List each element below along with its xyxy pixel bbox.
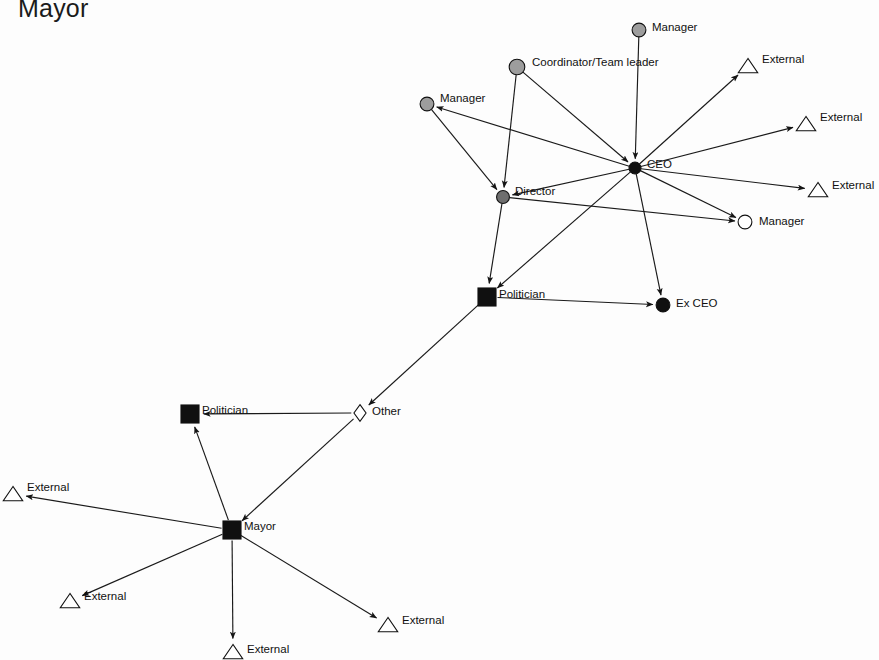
graph-edge xyxy=(369,304,479,405)
graph-edge xyxy=(195,427,229,520)
graph-node-manager_left[interactable]: Manager xyxy=(420,92,485,111)
graph-node-external_r2[interactable]: External xyxy=(796,111,862,131)
triangle-marker xyxy=(796,117,815,131)
circle-marker xyxy=(632,23,646,37)
graph-node-politician_lower[interactable]: Politician xyxy=(181,404,248,423)
node-label: Ex CEO xyxy=(676,297,718,309)
circle-marker xyxy=(420,97,434,111)
graph-edge xyxy=(640,171,736,218)
edges-layer xyxy=(26,37,804,639)
circle-marker xyxy=(656,298,670,312)
graph-node-coordinator[interactable]: Coordinator/Team leader xyxy=(509,56,659,75)
graph-edge xyxy=(82,534,222,595)
graph-node-director[interactable]: Director xyxy=(497,185,556,203)
node-label: External xyxy=(402,614,444,626)
node-label: Mayor xyxy=(244,520,276,532)
circle-marker xyxy=(497,191,510,204)
node-label: External xyxy=(832,179,874,191)
graph-node-external_b2[interactable]: External xyxy=(378,614,444,632)
graph-node-external_l2[interactable]: External xyxy=(60,590,126,608)
graph-edge xyxy=(431,109,497,189)
nodes-layer: ManagerCoordinator/Team leaderManagerCEO… xyxy=(3,21,874,659)
triangle-marker xyxy=(378,618,397,632)
circle-marker xyxy=(738,215,752,229)
graph-edge xyxy=(509,198,735,221)
square-marker xyxy=(223,521,241,539)
graph-edge xyxy=(242,419,353,521)
graph-edge xyxy=(639,75,738,164)
graph-node-manager_top[interactable]: Manager xyxy=(632,21,697,37)
square-marker xyxy=(181,405,199,423)
graph-edge xyxy=(232,541,233,639)
graph-node-other[interactable]: Other xyxy=(354,405,401,422)
circle-marker xyxy=(509,59,525,75)
graph-edge xyxy=(641,169,805,189)
node-label: Director xyxy=(515,185,555,197)
triangle-marker xyxy=(808,183,827,197)
node-label: External xyxy=(84,590,126,602)
network-graph: ManagerCoordinator/Team leaderManagerCEO… xyxy=(0,0,879,660)
diamond-marker xyxy=(354,405,366,422)
node-label: External xyxy=(247,643,289,655)
triangle-marker xyxy=(60,594,79,608)
node-label: Politician xyxy=(499,288,545,300)
node-label: CEO xyxy=(647,158,672,170)
graph-node-manager_right[interactable]: Manager xyxy=(738,215,804,229)
node-label: Other xyxy=(372,405,401,417)
triangle-marker xyxy=(738,59,757,73)
graph-edge xyxy=(489,203,502,283)
graph-edge xyxy=(523,72,628,162)
graph-node-external_r3[interactable]: External xyxy=(808,179,874,197)
graph-node-politician_upper[interactable]: Politician xyxy=(478,288,545,306)
diagram-canvas: Mayor ManagerCoordinator/Team leaderMana… xyxy=(0,0,879,660)
square-marker xyxy=(478,288,496,306)
triangle-marker xyxy=(3,487,22,501)
node-label: Manager xyxy=(759,215,805,227)
graph-edge xyxy=(636,174,661,295)
graph-node-mayor[interactable]: Mayor xyxy=(223,520,276,539)
triangle-marker xyxy=(223,645,242,659)
node-label: External xyxy=(27,481,69,493)
graph-node-ex_ceo[interactable]: Ex CEO xyxy=(656,297,717,312)
node-label: External xyxy=(820,111,862,123)
node-label: Coordinator/Team leader xyxy=(532,56,659,68)
node-label: Politician xyxy=(202,404,248,416)
node-label: Manager xyxy=(652,21,698,33)
graph-edge xyxy=(437,107,630,166)
graph-node-external_b1[interactable]: External xyxy=(223,643,289,659)
circle-marker xyxy=(629,162,641,174)
graph-edge xyxy=(241,535,377,618)
node-label: External xyxy=(762,53,804,65)
graph-node-external_r1[interactable]: External xyxy=(738,53,804,73)
graph-edge xyxy=(26,496,221,528)
node-label: Manager xyxy=(440,92,486,104)
